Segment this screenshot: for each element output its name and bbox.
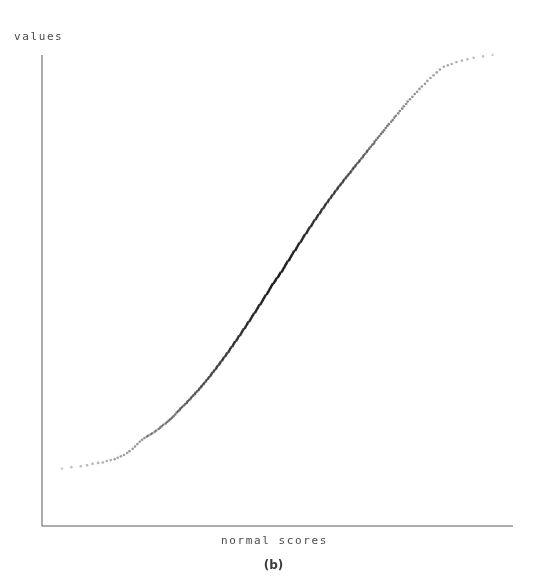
normal-probability-plot-canvas [0,0,535,582]
figure-panel: values normal scores (b) [0,0,535,582]
figure-caption: (b) [0,558,535,572]
x-axis-label: normal scores [0,534,535,547]
y-axis-label: values [14,30,63,43]
